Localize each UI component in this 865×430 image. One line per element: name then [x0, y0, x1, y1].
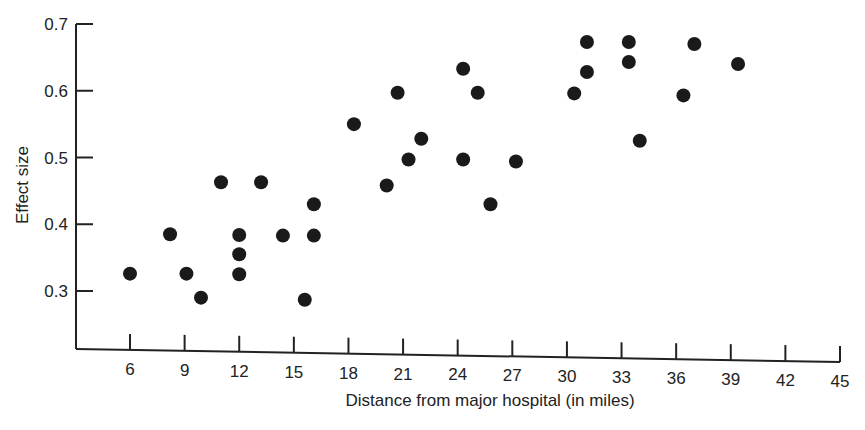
y-tick-label: 0.5 [44, 149, 68, 168]
x-tick-label: 9 [180, 361, 189, 380]
data-point [347, 117, 361, 131]
x-tick-label: 12 [230, 362, 249, 381]
x-tick-label: 36 [667, 369, 686, 388]
x-tick-label: 42 [776, 371, 795, 390]
x-tick-label: 24 [448, 365, 467, 384]
x-tick-label: 27 [503, 366, 522, 385]
y-tick-label: 0.4 [44, 215, 68, 234]
data-point [276, 229, 290, 243]
x-tick-label: 45 [831, 372, 850, 391]
data-point [509, 155, 523, 169]
data-point [232, 267, 246, 281]
axes: 0.30.40.50.60.76912151821242730333639424… [44, 15, 849, 391]
data-point [471, 86, 485, 100]
data-point [391, 86, 405, 100]
data-point [676, 88, 690, 102]
data-point [483, 197, 497, 211]
data-point [232, 247, 246, 261]
data-point [633, 134, 647, 148]
data-point [622, 35, 636, 49]
x-tick-label: 6 [125, 360, 134, 379]
data-point [232, 228, 246, 242]
data-point [123, 267, 137, 281]
y-tick-label: 0.6 [44, 82, 68, 101]
x-tick-label: 18 [339, 364, 358, 383]
scatter-chart: 0.30.40.50.60.76912151821242730333639424… [0, 0, 865, 430]
y-axis-label: Effect size [13, 146, 32, 224]
data-point [194, 291, 208, 305]
data-point [163, 227, 177, 241]
data-point [567, 86, 581, 100]
data-points [123, 35, 745, 307]
data-point [580, 65, 594, 79]
x-tick-label: 39 [721, 370, 740, 389]
data-point [731, 57, 745, 71]
y-tick-label: 0.3 [44, 282, 68, 301]
data-point [214, 175, 228, 189]
data-point [456, 62, 470, 76]
data-point [580, 35, 594, 49]
data-point [622, 55, 636, 69]
data-point [307, 229, 321, 243]
chart-canvas: 0.30.40.50.60.76912151821242730333639424… [0, 0, 865, 430]
data-point [298, 293, 312, 307]
data-point [307, 197, 321, 211]
y-tick-label: 0.7 [44, 15, 68, 34]
data-point [456, 153, 470, 167]
data-point [687, 37, 701, 51]
x-tick-label: 15 [284, 363, 303, 382]
data-point [414, 132, 428, 146]
x-tick-label: 33 [612, 368, 631, 387]
data-point [179, 267, 193, 281]
x-tick-label: 30 [557, 367, 576, 386]
data-point [380, 179, 394, 193]
data-point [254, 175, 268, 189]
x-axis-label: Distance from major hospital (in miles) [345, 391, 634, 410]
x-tick-label: 21 [394, 365, 413, 384]
data-point [402, 153, 416, 167]
